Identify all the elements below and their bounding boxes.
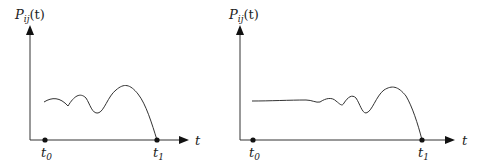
probability-curve [44,85,157,140]
right-diagram: Pij(t) t t0 t1 [228,7,468,162]
t1-point [419,137,424,142]
probability-curve [252,87,422,140]
t0-point [42,137,47,142]
t0-label: t0 [249,145,260,162]
left-diagram: Pij(t) t t0 t1 [14,7,201,162]
x-axis-arrow-icon [445,136,455,144]
t0-point [250,137,255,142]
y-axis-arrow-icon [26,25,34,35]
x-axis-arrow-icon [179,136,189,144]
y-axis-label: Pij(t) [14,7,45,24]
x-axis-label: t [462,133,468,148]
y-axis-arrow-icon [236,25,244,35]
t1-point [154,137,159,142]
diagrams-canvas: Pij(t) t t0 t1 Pij(t) t t0 t1 [0,0,484,164]
t1-label: t1 [153,145,164,162]
t1-label: t1 [418,145,429,162]
x-axis-label: t [195,133,201,148]
t0-label: t0 [41,145,52,162]
y-axis-label: Pij(t) [228,7,259,24]
